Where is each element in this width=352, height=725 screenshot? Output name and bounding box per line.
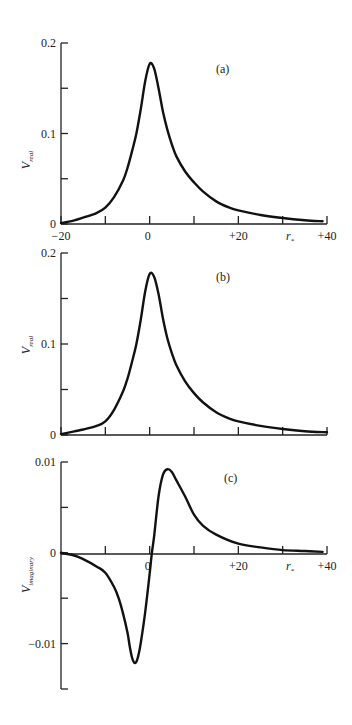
data-curve	[61, 273, 327, 434]
data-curve	[61, 63, 323, 223]
y-tick-label: 0.2	[41, 36, 56, 50]
y-tick-label: 0	[50, 428, 56, 442]
panel-label: (b)	[216, 270, 230, 284]
panel-label: (c)	[224, 471, 237, 485]
panel-label: (a)	[216, 62, 229, 76]
y-axis-title: Vimaginary	[19, 556, 35, 593]
x-axis-title: r*	[286, 559, 295, 575]
y-tick-label: −0.01	[28, 637, 56, 651]
data-curve	[61, 469, 323, 663]
x-tick-label: +20	[229, 559, 248, 573]
x-tick-label: −20	[52, 229, 71, 243]
x-tick-label: +40	[318, 229, 337, 243]
x-axis-title: r*	[286, 229, 295, 245]
y-tick-label: 0	[50, 546, 56, 560]
y-axis-title: Vreal	[19, 336, 35, 354]
figure-canvas: 00.10.2−200+20+40r*Vreal(a)00.10.2Vreal(…	[0, 0, 352, 725]
x-tick-label: +40	[318, 559, 337, 573]
x-tick-label: +20	[229, 229, 248, 243]
y-axis-title: Vreal	[19, 151, 35, 169]
y-tick-label: 0.1	[41, 127, 56, 141]
y-tick-label: 0.2	[41, 246, 56, 260]
x-tick-label: 0	[145, 229, 151, 243]
panel-b: 00.10.2Vreal(b)	[19, 246, 327, 442]
y-tick-label: 0.01	[35, 455, 56, 469]
y-tick-label: 0.1	[41, 337, 56, 351]
panel-c: 0.010−0.010+20+40r*Vimaginary(c)	[19, 455, 336, 689]
panel-a: 00.10.2−200+20+40r*Vreal(a)	[19, 36, 336, 245]
